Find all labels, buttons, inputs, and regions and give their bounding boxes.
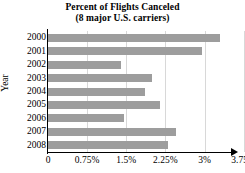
chart-subtitle: (8 major U.S. carriers) bbox=[0, 13, 245, 24]
bar-row bbox=[48, 128, 244, 136]
bar bbox=[48, 141, 168, 149]
bar-row bbox=[48, 101, 244, 109]
bar-row bbox=[48, 88, 244, 96]
bar bbox=[48, 74, 152, 82]
x-tick-label: 2.25% bbox=[153, 155, 178, 165]
chart-title-block: Percent of Flights Canceled (8 major U.S… bbox=[0, 2, 245, 24]
bar bbox=[48, 34, 220, 42]
bar bbox=[48, 114, 124, 122]
bar bbox=[48, 88, 145, 96]
x-axis-tick-labels: 00.75%1.5%2.25%3%3.75% bbox=[0, 155, 245, 169]
chart-title: Percent of Flights Canceled bbox=[0, 2, 245, 13]
y-tick-label: 2007 bbox=[0, 126, 46, 136]
bar-row bbox=[48, 114, 244, 122]
bar-row bbox=[48, 47, 244, 55]
x-tick-label: 3.75% bbox=[231, 155, 245, 165]
bar bbox=[48, 128, 176, 136]
bar-chart: Percent of Flights Canceled (8 major U.S… bbox=[0, 0, 245, 173]
y-tick-label: 2002 bbox=[0, 59, 46, 69]
x-tick-label: 3% bbox=[198, 155, 211, 165]
y-tick-label: 2005 bbox=[0, 99, 46, 109]
x-tick-label: 1.5% bbox=[116, 155, 136, 165]
y-tick-label: 2006 bbox=[0, 113, 46, 123]
plot-area bbox=[48, 31, 244, 152]
x-tick-label: 0.75% bbox=[75, 155, 100, 165]
y-tick-label: 2001 bbox=[0, 46, 46, 56]
x-tick-label: 0 bbox=[46, 155, 51, 165]
y-tick-label: 2008 bbox=[0, 140, 46, 150]
bar bbox=[48, 101, 160, 109]
bar-row bbox=[48, 34, 244, 42]
bar bbox=[48, 61, 121, 69]
y-axis-line bbox=[47, 29, 48, 154]
y-tick-label: 2004 bbox=[0, 86, 46, 96]
bar-row bbox=[48, 61, 244, 69]
x-axis-line bbox=[47, 152, 232, 153]
bar bbox=[48, 47, 202, 55]
y-axis-tick-labels: 200020012002200320042005200620072008 bbox=[0, 31, 46, 152]
y-tick-label: 2000 bbox=[0, 32, 46, 42]
bar-row bbox=[48, 74, 244, 82]
y-tick-label: 2003 bbox=[0, 73, 46, 83]
bar-row bbox=[48, 141, 244, 149]
